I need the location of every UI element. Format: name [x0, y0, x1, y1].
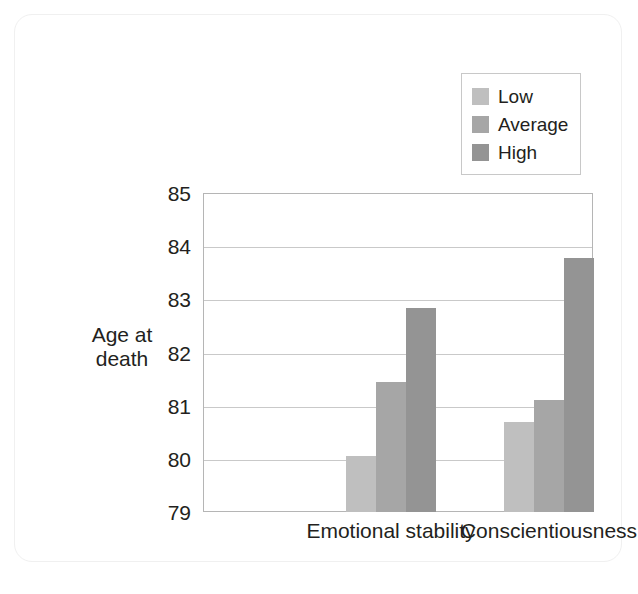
- chart-legend: Low Average High: [461, 73, 581, 175]
- bar-high-0: [406, 308, 436, 512]
- legend-swatch-high: [472, 144, 489, 161]
- legend-swatch-average: [472, 116, 489, 133]
- legend-item-low: Low: [472, 82, 568, 110]
- y-tick-label-84: 84: [131, 236, 191, 257]
- legend-label-low: Low: [498, 87, 533, 106]
- x-axis-labels: Emotional stabilityConscientiousness: [203, 520, 593, 550]
- y-axis-ticks: 85848382818079: [127, 193, 191, 512]
- legend-label-high: High: [498, 143, 537, 162]
- y-tick-label-85: 85: [131, 183, 191, 204]
- bar-low-0: [346, 456, 376, 512]
- legend-item-average: Average: [472, 110, 568, 138]
- bar-average-1: [534, 400, 564, 512]
- bars-layer: [203, 193, 593, 512]
- y-tick-label-79: 79: [131, 502, 191, 523]
- y-tick-label-80: 80: [131, 449, 191, 470]
- y-tick-label-82: 82: [131, 343, 191, 364]
- y-tick-label-83: 83: [131, 289, 191, 310]
- figure-card: Low Average High Age at death 8584838281…: [14, 14, 622, 562]
- legend-item-high: High: [472, 138, 568, 166]
- bar-high-1: [564, 258, 594, 512]
- x-axis-label-1: Conscientiousness: [439, 520, 638, 541]
- y-tick-label-81: 81: [131, 396, 191, 417]
- legend-label-average: Average: [498, 115, 568, 134]
- plot-area: [203, 193, 593, 512]
- bar-average-0: [376, 382, 406, 512]
- bar-low-1: [504, 422, 534, 512]
- legend-swatch-low: [472, 88, 489, 105]
